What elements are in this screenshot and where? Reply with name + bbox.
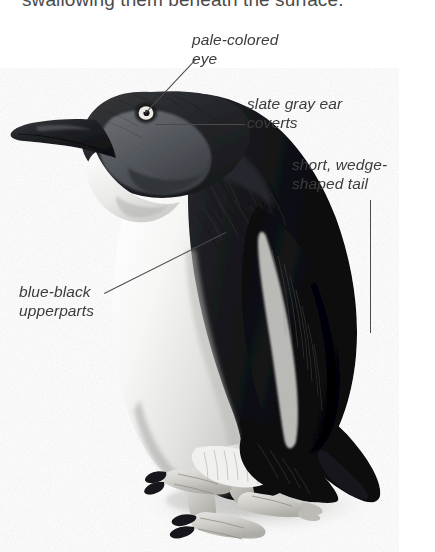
leader-line-tail: [370, 200, 371, 333]
annotation-label-pale-colored-eye: pale-colored eye: [192, 31, 279, 68]
annotation-label-slate-gray-ear-coverts: slate gray ear coverts: [247, 95, 342, 132]
annotation-label-short-wedge-shaped-tail: short, wedge- shaped tail: [292, 156, 387, 193]
field-guide-page: swallowing them beneath the surface.: [0, 0, 435, 552]
leader-line-ear-coverts: [155, 124, 245, 125]
annotation-label-blue-black-upperparts: blue-black upperparts: [19, 283, 94, 320]
